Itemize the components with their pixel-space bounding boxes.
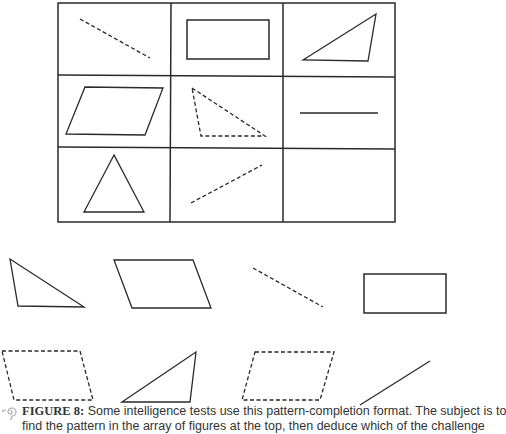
caption-text-line2: find the pattern in the array of figures… bbox=[22, 419, 485, 433]
figure-caption: FIGURE 8: Some intelligence tests use th… bbox=[22, 404, 462, 434]
spiral-icon bbox=[2, 404, 18, 420]
answer-options bbox=[2, 259, 446, 405]
figure-label: FIGURE 8: bbox=[22, 404, 84, 418]
pattern-matrix bbox=[58, 3, 395, 222]
caption-text: Some intelligence tests use this pattern… bbox=[88, 404, 506, 418]
